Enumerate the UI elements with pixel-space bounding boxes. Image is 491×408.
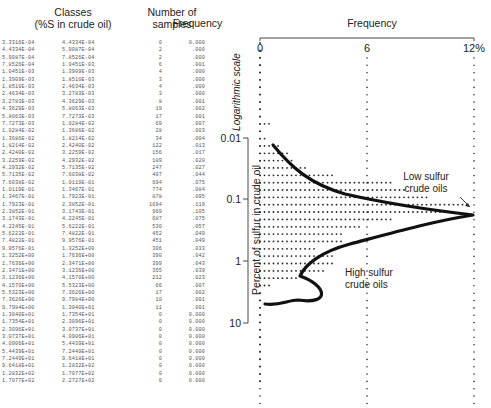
annotation-low-sulfur-line1: Low sulfur (403, 171, 449, 182)
annotation-high-sulfur-line1: High sulfur (345, 267, 393, 278)
y-tick-1: 1 (235, 255, 241, 267)
y-axis-title: Percent of sulfur in crude oil (250, 165, 262, 295)
x-tick-12: 12% (463, 42, 485, 54)
frequency-histogram: Frequency 0 6 12% Logarithmic scale 0.01… (0, 0, 491, 408)
x-axis: Frequency 0 6 12% (257, 17, 485, 54)
x-tick-6: 6 (364, 42, 370, 54)
annotation-low-sulfur: Low sulfur crude oils (403, 171, 470, 207)
y-tick-10: 10 (229, 317, 241, 329)
annotation-high-sulfur: High sulfur crude oils (345, 267, 393, 290)
histogram-dot-bars (259, 42, 468, 382)
y-tick-0.1: 0.1 (226, 193, 241, 205)
x-axis-title: Frequency (347, 17, 397, 29)
gridlines (259, 57, 475, 404)
y-scale-note: Logarithmic scale (231, 53, 242, 131)
annotation-low-sulfur-line2: crude oils (405, 183, 448, 194)
y-tick-0.01: 0.01 (221, 132, 242, 144)
y-axis: Logarithmic scale 0.01 0.1 1 10 Percent … (221, 53, 262, 329)
annotation-high-sulfur-line2: crude oils (345, 279, 388, 290)
